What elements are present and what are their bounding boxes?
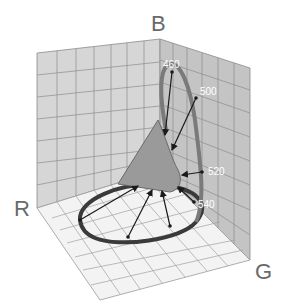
diagram-canvas: 460 500 520 540 B R G (0, 0, 282, 306)
wavelength-label-500: 500 (200, 86, 217, 97)
wavelength-label-520: 520 (208, 166, 225, 177)
axis-label-red: R (14, 196, 30, 221)
wavelength-label-540: 540 (198, 199, 215, 210)
axis-label-green: G (255, 259, 272, 284)
axis-label-blue: B (151, 11, 166, 36)
color-space-diagram: 460 500 520 540 B R G (0, 0, 282, 306)
wavelength-label-460: 460 (163, 59, 180, 70)
